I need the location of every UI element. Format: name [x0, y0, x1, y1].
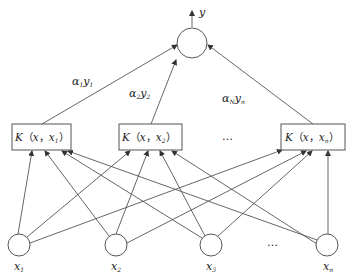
- weight-label-1: α1y1: [72, 75, 93, 88]
- edge-x2-k2: [116, 151, 148, 234]
- input-label-3: x3: [206, 260, 216, 273]
- kernel-ellipsis: …: [222, 130, 233, 143]
- output-label: y: [199, 6, 205, 19]
- edge-x2-k1: [45, 151, 109, 236]
- edge-k1-output: [42, 45, 177, 124]
- input-node-3: [200, 234, 222, 256]
- edge-x1-kn: [30, 150, 282, 243]
- edge-xn-k2: [172, 151, 317, 244]
- input-label-1: x1: [14, 260, 24, 273]
- input-node-1: [8, 234, 30, 256]
- output-node: [177, 28, 207, 58]
- input-label-2: x2: [111, 260, 121, 273]
- weight-label-n: αNyn: [222, 92, 245, 105]
- kernel-label-1: K（x，x1）: [15, 129, 69, 144]
- edge-x1-k1: [18, 151, 32, 234]
- edge-k2-output: [151, 60, 176, 124]
- input-label-n: xn: [323, 260, 333, 273]
- input-node-n: [316, 234, 338, 256]
- input-node-2: [105, 234, 127, 256]
- kernel-label-n: K（x，xn）: [285, 129, 339, 144]
- edge-x3-kn: [218, 151, 312, 236]
- edge-x3-k1: [62, 151, 202, 238]
- edge-x3-k2: [160, 151, 205, 236]
- edge-kn-output: [208, 45, 313, 124]
- weight-label-2: α2y2: [129, 87, 150, 100]
- kernel-label-2: K（x，x2）: [122, 129, 176, 144]
- input-ellipsis: …: [267, 236, 278, 249]
- edge-x1-k2: [27, 151, 130, 237]
